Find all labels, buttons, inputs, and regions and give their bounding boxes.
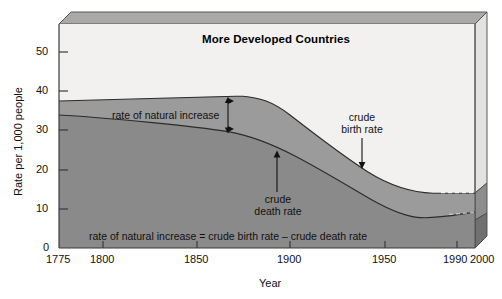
y-tick-label-10: 10: [36, 202, 48, 214]
annotation-crude-birth-rate-line1: crude: [342, 111, 382, 123]
annotation-crude-death-rate-line1: crude: [258, 193, 298, 205]
y-tick-label-30: 30: [36, 123, 48, 135]
box-top-face: [59, 12, 487, 24]
y-tick-label-40: 40: [36, 84, 48, 96]
y-tick-label-0: 0: [43, 241, 49, 253]
y-axis-title: Rate per 1,000 people: [12, 87, 24, 196]
x-tick-label-1950: 1950: [372, 253, 396, 265]
x-tick-label-1990: 1990: [443, 253, 467, 265]
x-axis-title: Year: [259, 277, 281, 289]
x-tick-label-1850: 1850: [184, 253, 208, 265]
y-tick-label-20: 20: [36, 163, 48, 175]
box-right-face-upper: [475, 12, 487, 193]
x-tick-label-1900: 1900: [277, 253, 301, 265]
chart-figure: More Developed Countries Rate per 1,000 …: [0, 0, 502, 299]
annotation-crude-death-rate-line2: death rate: [248, 205, 308, 217]
x-tick-label-1775: 1775: [46, 253, 70, 265]
annotation-equation: rate of natural increase = crude birth r…: [89, 230, 367, 242]
annotation-crude-birth-rate-line2: birth rate: [333, 123, 391, 135]
y-tick-label-50: 50: [36, 45, 48, 57]
annotation-natural-increase: rate of natural increase: [112, 109, 219, 121]
x-tick-label-1800: 1800: [90, 253, 114, 265]
x-tick-label-2000: 2000: [470, 253, 494, 265]
chart-title: More Developed Countries: [202, 33, 350, 45]
